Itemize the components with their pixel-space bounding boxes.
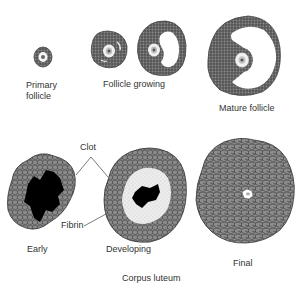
corpus-luteum-group-label: Corpus luteum (122, 273, 181, 284)
growing-follicle-early-illustration (91, 31, 127, 68)
early-label: Early (27, 244, 48, 255)
primary-follicle-label-line2: follicle (26, 91, 51, 101)
developing-label: Developing (106, 244, 151, 255)
ovarian-cycle-diagram: Primary follicle Follicle growing Mature… (0, 0, 307, 290)
primary-follicle-label-line1: Primary (26, 80, 57, 90)
mature-follicle-illustration (208, 16, 281, 96)
primary-follicle-label: Primary follicle (26, 80, 57, 102)
follicle-growing-label: Follicle growing (103, 79, 165, 90)
mature-follicle-label: Mature follicle (219, 103, 275, 114)
clot-annotation-label: Clot (80, 142, 96, 153)
final-label: Final (233, 258, 253, 269)
fibrin-leader-line (84, 214, 106, 226)
growing-follicle-late-illustration (137, 21, 186, 76)
fibrin-annotation-label: Fibrin (61, 220, 84, 231)
final-corpus-luteum-illustration (196, 138, 294, 243)
early-corpus-luteum-illustration (8, 154, 76, 229)
clot-leader-lines (76, 157, 108, 177)
developing-corpus-luteum-illustration (104, 148, 186, 242)
primary-follicle-illustration (34, 47, 52, 67)
